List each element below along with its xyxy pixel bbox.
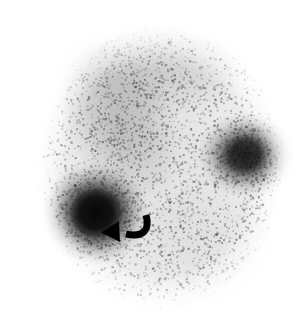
scintigraphy-figure: Nuclear medicine scintigram showing diff… bbox=[0, 0, 304, 321]
scintigram-image bbox=[0, 0, 304, 321]
